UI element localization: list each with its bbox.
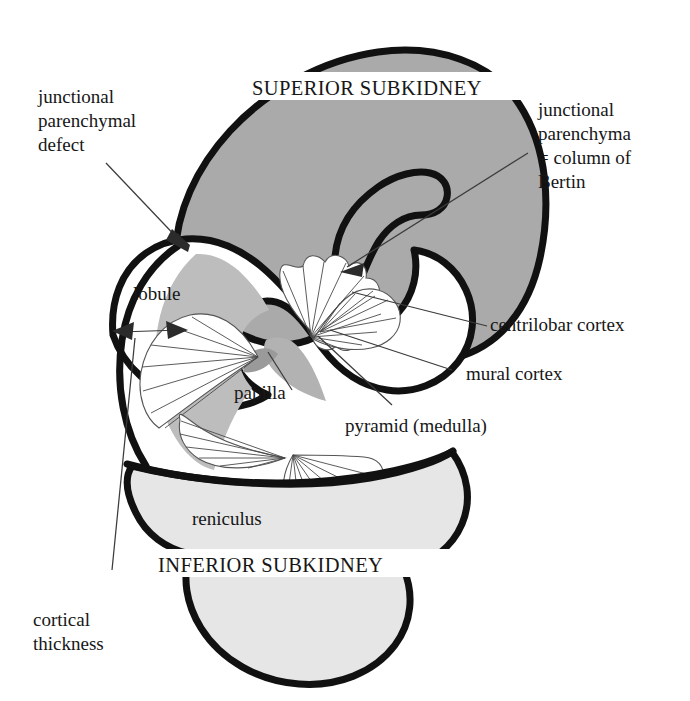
label-cortical-thickness-line1: cortical bbox=[33, 609, 90, 630]
label-cortical-thickness-line2: thickness bbox=[33, 633, 104, 654]
diagram-canvas: SUPERIOR SUBKIDNEY INFERIOR SUBKIDNEY ju… bbox=[0, 0, 690, 701]
label-junctional-parenchyma-line3: = column of bbox=[538, 147, 632, 168]
label-pyramid-medulla: pyramid (medulla) bbox=[345, 415, 487, 437]
label-mural-cortex: mural cortex bbox=[466, 363, 563, 384]
label-papilla: papilla bbox=[234, 382, 286, 403]
leader-junctional-parenchymal-defect bbox=[106, 163, 190, 252]
label-junctional-parenchyma-line4: Bertin bbox=[538, 171, 586, 192]
label-centrilobar-cortex: centrilobar cortex bbox=[490, 314, 625, 335]
label-junctional-parenchymal-defect-line2: parenchymal bbox=[38, 110, 136, 131]
label-junctional-parenchyma-line1: junctional bbox=[537, 99, 614, 120]
label-superior-subkidney: SUPERIOR SUBKIDNEY bbox=[252, 77, 482, 99]
label-inferior-subkidney: INFERIOR SUBKIDNEY bbox=[158, 554, 383, 576]
label-junctional-parenchymal-defect-line1: junctional bbox=[37, 86, 114, 107]
kidney-anatomy-diagram: SUPERIOR SUBKIDNEY INFERIOR SUBKIDNEY ju… bbox=[0, 0, 690, 701]
label-lobule: lobule bbox=[133, 283, 181, 304]
label-junctional-parenchymal-defect-line3: defect bbox=[38, 134, 85, 155]
label-junctional-parenchyma-line2: parenchyma bbox=[538, 123, 631, 144]
label-reniculus: reniculus bbox=[192, 508, 262, 529]
